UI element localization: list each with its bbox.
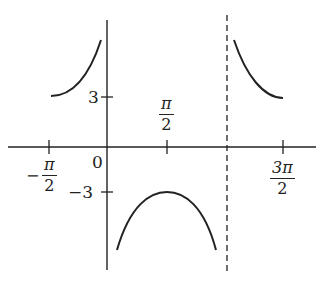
curve-branch-right [234,40,283,98]
numerator: π [42,157,57,176]
y-label-3: 3 [88,89,99,106]
graph-plot [0,0,320,282]
curve-branch-middle [117,192,216,250]
minus-sign: − [26,168,39,184]
y-label-neg3: −3 [68,184,93,201]
x-label-three-half-pi: 3π 2 [270,160,295,197]
x-label-half-pi: π 2 [159,96,174,133]
denominator: 2 [159,115,174,133]
denominator: 2 [42,176,57,194]
origin-label: 0 [92,154,103,171]
numerator: 3π [270,160,295,179]
numerator: π [159,96,174,115]
x-label-neg-half-pi: − π 2 [42,157,57,194]
denominator: 2 [270,179,295,197]
